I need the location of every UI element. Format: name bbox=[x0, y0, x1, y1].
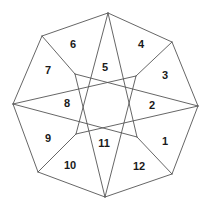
region-7-label: 7 bbox=[45, 65, 51, 76]
edge-diagonal-left-to-inner-upper-right bbox=[13, 76, 136, 104]
figure-canvas: 123456789101112 bbox=[0, 0, 210, 212]
edge-diagonal-right-to-inner-upper-left bbox=[75, 74, 198, 106]
edge-outer-bottom-to-lower-left bbox=[38, 172, 105, 197]
edge-diagonal-left-to-inner-lower-right bbox=[13, 104, 137, 137]
region-8-label: 8 bbox=[64, 98, 70, 109]
region-2-label: 2 bbox=[149, 100, 155, 111]
region-12-label: 12 bbox=[133, 161, 145, 172]
edge-outer-right-to-lower-right bbox=[172, 106, 198, 174]
edge-layer bbox=[13, 13, 198, 197]
edge-diagonal-bottom-to-inner-upper-left bbox=[75, 74, 105, 197]
region-4-label: 4 bbox=[138, 39, 144, 50]
region-6-label: 6 bbox=[70, 39, 76, 50]
region-3-label: 3 bbox=[162, 70, 168, 81]
region-11-label: 11 bbox=[98, 138, 110, 149]
region-5-label: 5 bbox=[102, 62, 108, 73]
edge-outer-lower-left-to-left bbox=[13, 104, 38, 172]
edge-outer-lower-right-to-bottom bbox=[105, 174, 172, 197]
edge-diagonal-top-to-inner-lower-left bbox=[76, 13, 108, 134]
region-10-label: 10 bbox=[64, 160, 76, 171]
edge-outer-upper-right-to-right bbox=[172, 42, 198, 106]
edge-diagonal-top-to-inner-lower-right bbox=[108, 13, 137, 137]
polygon-subdivision-diagram bbox=[0, 0, 210, 212]
edge-diagonal-right-to-inner-lower-left bbox=[76, 106, 198, 134]
edge-outer-left-to-upper-left bbox=[13, 36, 42, 104]
region-9-label: 9 bbox=[45, 133, 51, 144]
edge-outer-upper-left-to-top bbox=[42, 13, 108, 36]
region-1-label: 1 bbox=[162, 136, 168, 147]
